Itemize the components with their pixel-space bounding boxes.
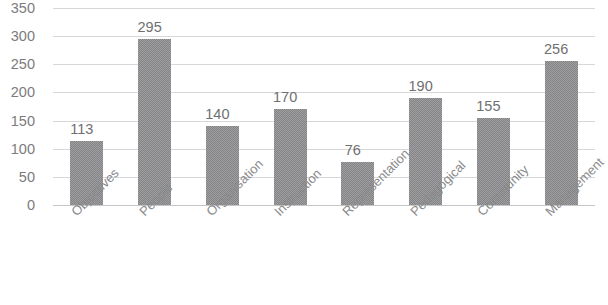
bar-value-label: 170 [255, 90, 315, 105]
bar-value-label: 113 [52, 122, 112, 137]
bar-value-label: 295 [120, 20, 180, 35]
y-axis-tick-label: 350 [0, 1, 35, 16]
y-axis-tick-label: 250 [0, 57, 35, 72]
gridline [53, 92, 595, 93]
y-axis-tick-label: 300 [0, 29, 35, 44]
gridline [53, 205, 595, 206]
bar-value-label: 76 [323, 143, 383, 158]
clipped-chart-title [0, 0, 608, 7]
bar-value-label: 155 [458, 99, 518, 114]
gridline [53, 64, 595, 65]
y-axis-tick-label: 0 [0, 198, 35, 213]
gridline [53, 8, 595, 9]
y-axis-tick-label: 50 [0, 170, 35, 185]
y-axis-tick-label: 200 [0, 85, 35, 100]
gridline [53, 121, 595, 122]
gridline [53, 36, 595, 37]
y-axis-tick-label: 150 [0, 114, 35, 129]
bar-value-label: 190 [391, 79, 451, 94]
y-axis-tick-label: 100 [0, 142, 35, 157]
bar-value-label: 140 [187, 107, 247, 122]
bar-chart: 3503002502001501005001132951401707619015… [0, 0, 608, 305]
bar-value-label: 256 [526, 42, 586, 57]
